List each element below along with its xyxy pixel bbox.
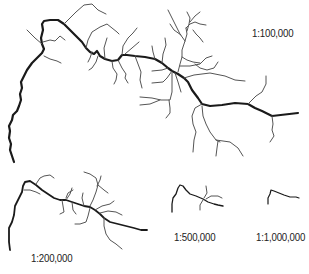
scale-label-500000: 1:500,000 <box>174 231 215 243</box>
scale-label-100000: 1:100,000 <box>252 27 293 39</box>
main-channel <box>9 20 298 162</box>
scale-label-200000: 1:200,000 <box>31 252 72 264</box>
main-channel <box>9 181 147 250</box>
river-map-1-500000 <box>172 185 223 212</box>
river-map-1-1000000 <box>268 190 299 204</box>
river-map-1-200000 <box>9 172 147 250</box>
main-channel <box>172 185 223 212</box>
scale-label-1000000: 1:1,000,000 <box>256 231 305 243</box>
main-channel <box>268 190 299 204</box>
